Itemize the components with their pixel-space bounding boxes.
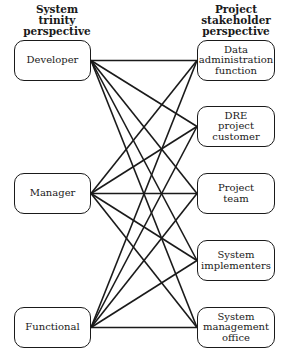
node-project-team: Project team <box>197 173 275 214</box>
node-label: Manager <box>30 188 76 199</box>
node-label: Functional <box>25 322 79 333</box>
node-label: Data administration function <box>199 45 273 77</box>
left-column-header: System trinity perspective <box>14 4 100 37</box>
edge-line <box>91 61 197 127</box>
node-data-administration-function: Data administration function <box>197 40 275 81</box>
node-label: Developer <box>27 55 79 66</box>
node-manager: Manager <box>14 173 91 214</box>
edge-line <box>91 127 197 194</box>
node-label: Project team <box>218 183 254 204</box>
edge-line <box>91 261 197 328</box>
node-label: DRE project customer <box>212 111 259 143</box>
node-functional: Functional <box>14 307 91 348</box>
node-developer: Developer <box>14 40 91 81</box>
node-label: System implementers <box>201 250 271 271</box>
node-label: System management office <box>203 312 269 344</box>
right-column-header: Project stakeholder perspective <box>190 4 282 37</box>
node-system-management-office: System management office <box>197 307 275 348</box>
node-dre-project-customer: DRE project customer <box>197 106 275 147</box>
node-system-implementers: System implementers <box>197 240 275 281</box>
edge-line <box>91 127 197 328</box>
